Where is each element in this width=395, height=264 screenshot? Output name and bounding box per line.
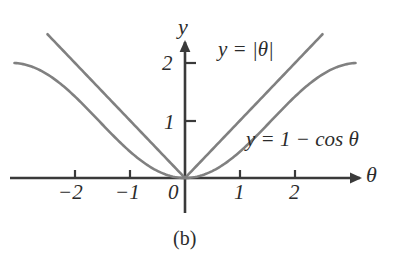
x-tick-label-2: 2 [289, 182, 300, 203]
y-axis-label: y [178, 16, 188, 38]
y-axis-arrowhead [180, 40, 191, 52]
x-axis-label: θ [366, 164, 377, 186]
curve-label-one-minus-cos-theta: y = 1 − cos θ [246, 129, 359, 150]
y-tick-label-1: 1 [164, 112, 175, 133]
x-tick-label-minus-2: −2 [58, 182, 83, 203]
y-tick-label-2: 2 [162, 53, 173, 74]
x-tick-label-minus-1: −1 [115, 182, 140, 203]
x-axis-arrowhead [350, 173, 362, 184]
figure-caption: (b) [173, 228, 196, 248]
curve-label-abs-theta: y = |θ| [218, 39, 274, 60]
x-tick-label-0: 0 [168, 182, 179, 203]
figure-panel: y θ y = |θ| y = 1 − cos θ 2 1 −2 −1 0 1 … [0, 0, 395, 264]
x-tick-label-1: 1 [234, 182, 245, 203]
